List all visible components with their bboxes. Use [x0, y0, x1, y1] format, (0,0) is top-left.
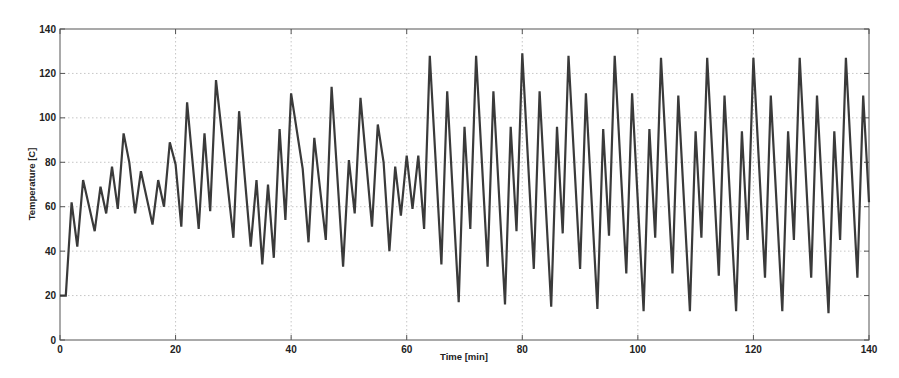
- y-tick-label: 100: [39, 112, 56, 123]
- plot-frame: [60, 29, 869, 340]
- y-tick-label: 80: [45, 157, 57, 168]
- y-tick-label: 20: [45, 290, 57, 301]
- x-tick-label: 140: [861, 344, 878, 355]
- x-tick-label: 100: [630, 344, 647, 355]
- temperature-chart: 020406080100120140 020406080100120140 Ti…: [0, 0, 899, 378]
- x-tick-label: 80: [517, 344, 529, 355]
- x-tick-label: 40: [286, 344, 298, 355]
- x-tick-label: 60: [401, 344, 413, 355]
- y-tick-label: 40: [45, 246, 57, 257]
- y-tick-label: 120: [39, 68, 56, 79]
- y-axis-label: Temperature [C]: [26, 148, 37, 221]
- grid-lines: [60, 29, 869, 340]
- x-tick-label: 0: [57, 344, 63, 355]
- y-tick-label: 140: [39, 24, 56, 35]
- y-tick-label: 0: [50, 335, 56, 346]
- x-tick-label: 20: [170, 344, 182, 355]
- x-tick-label: 120: [745, 344, 762, 355]
- x-axis-label: Time [min]: [440, 351, 488, 362]
- chart-canvas: 020406080100120140 020406080100120140 Ti…: [0, 0, 899, 378]
- y-tick-labels: 020406080100120140: [39, 24, 56, 346]
- y-tick-label: 60: [45, 201, 57, 212]
- axis-ticks: [60, 29, 869, 340]
- temperature-line: [60, 53, 869, 313]
